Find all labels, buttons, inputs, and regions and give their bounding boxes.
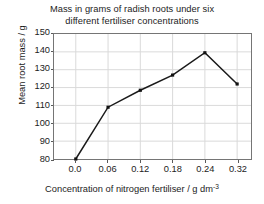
data-point-marker <box>106 106 109 109</box>
data-point-marker <box>139 89 142 92</box>
y-axis-tick-label: 150 <box>34 28 50 37</box>
y-axis-tick-labels: 1501401301201101009080 <box>22 33 50 160</box>
y-axis-tick-label: 90 <box>40 137 50 146</box>
x-axis-tick-mark <box>75 160 76 163</box>
x-axis-tick-mark <box>238 160 239 163</box>
x-axis-tick-label: 0.12 <box>131 164 149 174</box>
series-line <box>76 53 237 159</box>
data-point-marker <box>203 51 206 54</box>
y-axis-tick-label: 120 <box>34 83 50 92</box>
data-point-marker <box>236 82 239 85</box>
y-axis-tick-label: 100 <box>34 119 50 128</box>
plot-area <box>53 33 252 160</box>
data-point-marker <box>171 73 174 76</box>
y-axis-tick-label: 80 <box>40 155 50 164</box>
y-axis-tick-label: 140 <box>34 46 50 55</box>
x-axis-tick-mark <box>172 160 173 163</box>
y-axis-tick-label: 110 <box>35 101 50 110</box>
x-axis-tick-label: 0.32 <box>229 164 247 174</box>
x-axis-tick-label: 0.06 <box>99 164 117 174</box>
x-axis-tick-label: 0.24 <box>196 164 214 174</box>
chart-figure: Mass in grams of radish roots under six … <box>0 0 264 204</box>
x-axis-tick-labels: 0.00.060.120.180.240.32 <box>53 164 252 176</box>
x-axis-tick-mark <box>205 160 206 163</box>
x-axis-tick-label: 0.0 <box>69 164 82 174</box>
x-axis-title-exponent: -3 <box>213 183 219 190</box>
x-axis-title-text: Concentration of nitrogen fertiliser / g… <box>45 184 213 194</box>
chart-title-line-2: different fertiliser concentrations <box>0 15 264 27</box>
x-axis-tick-label: 0.18 <box>164 164 182 174</box>
x-axis-title: Concentration of nitrogen fertiliser / g… <box>0 183 264 194</box>
x-axis-tick-mark <box>140 160 141 163</box>
chart-title: Mass in grams of radish roots under six … <box>0 3 264 27</box>
data-series-line <box>54 34 251 159</box>
chart-title-line-1: Mass in grams of radish roots under six <box>0 3 264 15</box>
x-axis-tick-mark <box>107 160 108 163</box>
y-axis-tick-label: 130 <box>34 65 50 74</box>
